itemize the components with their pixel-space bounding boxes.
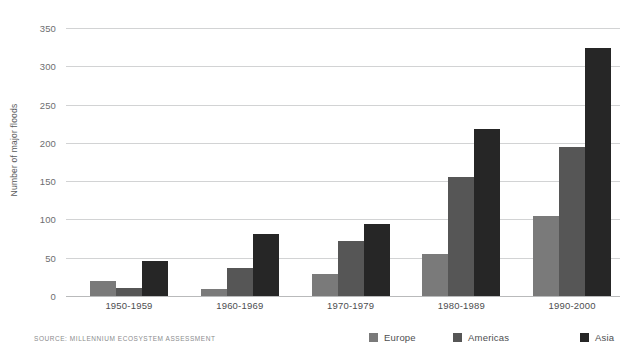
- bar-group: [90, 28, 168, 296]
- x-axis-category-labels: 1950-19591960-19691970-19791980-19891990…: [66, 300, 620, 318]
- bar-group: [422, 28, 500, 296]
- x-axis-category-label: 1960-1969: [185, 300, 295, 311]
- bar: [364, 224, 390, 296]
- y-axis-tick-label: 0: [0, 291, 56, 302]
- y-axis-tick-label: 300: [0, 61, 56, 72]
- legend-label: Americas: [468, 332, 509, 343]
- bar-group: [533, 28, 611, 296]
- y-axis-tick-label: 100: [0, 214, 56, 225]
- legend-item[interactable]: Americas: [453, 332, 509, 343]
- bar-group: [312, 28, 390, 296]
- chart-footer: SOURCE: MILLENNIUM ECOSYSTEM ASSESSMENT …: [0, 330, 626, 361]
- legend-swatch-icon: [369, 333, 378, 342]
- legend-swatch-icon: [453, 333, 462, 342]
- bar: [474, 129, 500, 296]
- bar: [448, 177, 474, 296]
- bars-layer: [66, 28, 620, 296]
- x-axis-category-label: 1970-1979: [296, 300, 406, 311]
- bar-group: [201, 28, 279, 296]
- x-axis-category-label: 1980-1989: [406, 300, 516, 311]
- y-axis-tick-label: 200: [0, 137, 56, 148]
- bar: [142, 261, 168, 296]
- bar: [422, 254, 448, 296]
- legend-item[interactable]: Asia: [580, 332, 614, 343]
- legend-item[interactable]: Europe: [369, 332, 416, 343]
- y-axis-tick-label: 150: [0, 176, 56, 187]
- bar: [116, 288, 142, 296]
- bar: [227, 268, 253, 296]
- source-note: SOURCE: MILLENNIUM ECOSYSTEM ASSESSMENT: [34, 335, 215, 342]
- bar: [559, 147, 585, 296]
- gridline: [66, 296, 620, 297]
- x-axis-category-label: 1990-2000: [517, 300, 626, 311]
- y-axis-tick-label: 350: [0, 23, 56, 34]
- legend-label: Europe: [384, 332, 416, 343]
- plot-area: [66, 28, 620, 296]
- bar: [312, 274, 338, 296]
- x-axis-category-label: 1950-1959: [74, 300, 184, 311]
- bar: [253, 234, 279, 296]
- bar: [201, 289, 227, 296]
- flood-bar-chart: Number of major floods 05010015020025030…: [0, 0, 626, 361]
- y-axis-tick-label: 50: [0, 252, 56, 263]
- legend-swatch-icon: [580, 333, 589, 342]
- legend-label: Asia: [595, 332, 614, 343]
- bar: [338, 241, 364, 296]
- bar: [585, 48, 611, 296]
- bar: [90, 281, 116, 296]
- y-axis-tick-label: 250: [0, 99, 56, 110]
- bar: [533, 216, 559, 296]
